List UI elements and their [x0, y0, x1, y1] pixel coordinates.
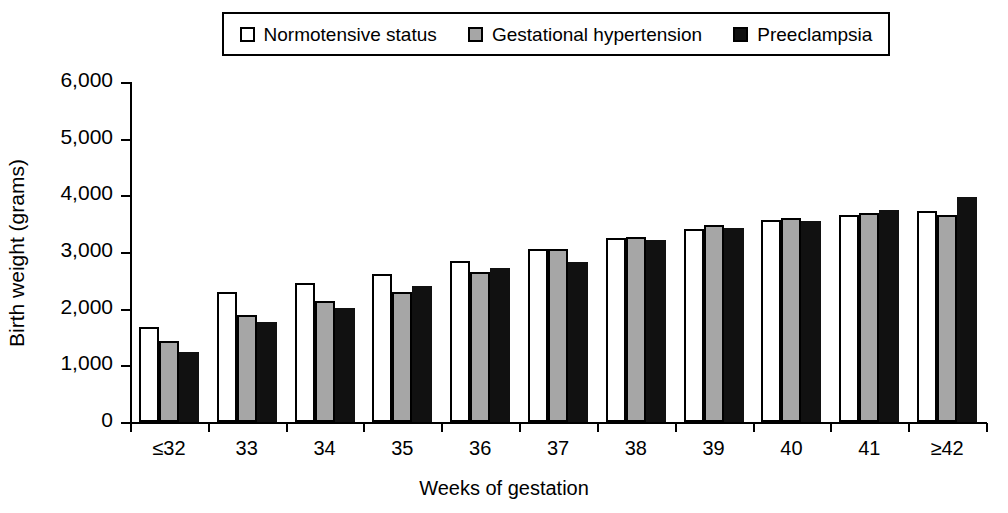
bar-group	[528, 82, 588, 422]
x-tick	[441, 423, 443, 432]
y-axis-title: Birth weight (grams)	[6, 0, 27, 128]
bar-group	[295, 82, 355, 422]
bar	[450, 261, 470, 422]
x-tick-label: 39	[703, 438, 725, 458]
x-tick	[286, 423, 288, 432]
legend-swatch-black-icon	[733, 27, 748, 42]
x-tick-label: 40	[780, 438, 802, 458]
x-tick-label: 34	[313, 438, 335, 458]
y-tick-2000: 2,000	[121, 309, 130, 311]
bar	[859, 213, 879, 422]
bar	[957, 197, 977, 422]
bar	[917, 211, 937, 422]
x-tick	[675, 423, 677, 432]
y-tick-0: 0	[121, 422, 130, 424]
bar	[372, 274, 392, 422]
legend-swatch-white-icon	[240, 27, 255, 42]
bar-group	[917, 82, 977, 422]
bar-group	[139, 82, 199, 422]
bar	[606, 238, 626, 422]
y-tick-label-6000: 6,000	[23, 69, 113, 90]
bar	[237, 315, 257, 422]
legend-label-preeclampsia: Preeclampsia	[757, 25, 872, 44]
y-tick-label-2000: 2,000	[23, 296, 113, 317]
legend-label-gestational-hypertension: Gestational hypertension	[492, 25, 702, 44]
x-tick	[830, 423, 832, 432]
legend-item-preeclampsia: Preeclampsia	[733, 25, 872, 44]
bar	[490, 268, 510, 422]
bar	[704, 225, 724, 422]
bar	[937, 215, 957, 422]
x-tick	[519, 423, 521, 432]
y-tick-1000: 1,000	[121, 365, 130, 367]
y-tick-label-0: 0	[23, 409, 113, 430]
x-tick-label: 35	[391, 438, 413, 458]
bar	[159, 341, 179, 422]
bar	[761, 220, 781, 422]
x-tick-label: ≥42	[930, 438, 963, 458]
bar	[257, 322, 277, 422]
legend-label-normotensive: Normotensive status	[264, 25, 437, 44]
y-axis-line	[130, 82, 132, 423]
x-tick	[597, 423, 599, 432]
y-tick-label-4000: 4,000	[23, 182, 113, 203]
bar	[412, 286, 432, 422]
x-tick-label: 36	[469, 438, 491, 458]
x-tick-label: 38	[625, 438, 647, 458]
bar	[295, 283, 315, 422]
x-tick	[363, 423, 365, 432]
bar	[879, 210, 899, 423]
bar	[179, 352, 199, 422]
bar	[548, 249, 568, 422]
x-axis-line	[130, 422, 987, 424]
x-tick	[986, 423, 988, 432]
x-tick-label: ≤32	[152, 438, 185, 458]
y-tick-6000: 6,000	[121, 82, 130, 84]
x-axis-title: Weeks of gestation	[0, 478, 1008, 498]
bar	[781, 218, 801, 422]
bar-group	[839, 82, 899, 422]
legend-item-gestational-hypertension: Gestational hypertension	[468, 25, 702, 44]
legend-item-normotensive: Normotensive status	[240, 25, 437, 44]
bar	[470, 272, 490, 422]
chart-legend: Normotensive status Gestational hyperten…	[222, 12, 890, 56]
bar-group	[606, 82, 666, 422]
y-tick-5000: 5,000	[121, 139, 130, 141]
bar-group	[761, 82, 821, 422]
bar	[392, 292, 412, 422]
bar-chart-figure: Normotensive status Gestational hyperten…	[0, 0, 1008, 513]
x-tick	[908, 423, 910, 432]
bar-group	[217, 82, 277, 422]
x-tick-label: 37	[547, 438, 569, 458]
bar	[646, 240, 666, 422]
bar	[684, 229, 704, 422]
bar	[528, 249, 548, 422]
bar	[139, 327, 159, 422]
bar-group	[372, 82, 432, 422]
bar	[568, 262, 588, 422]
bar-group	[450, 82, 510, 422]
bar-group	[684, 82, 744, 422]
bar	[839, 215, 859, 422]
bar	[217, 292, 237, 422]
y-tick-label-1000: 1,000	[23, 352, 113, 373]
x-tick-label: 41	[858, 438, 880, 458]
bar	[335, 308, 355, 422]
y-tick-3000: 3,000	[121, 252, 130, 254]
x-tick	[208, 423, 210, 432]
y-tick-label-5000: 5,000	[23, 126, 113, 147]
bar	[801, 221, 821, 422]
x-tick-label: 33	[236, 438, 258, 458]
plot-area: 01,0002,0003,0004,0005,0006,000 ≤3233343…	[130, 82, 986, 422]
bar	[724, 228, 744, 422]
bar	[626, 237, 646, 422]
x-tick	[130, 423, 132, 432]
legend-swatch-gray-icon	[468, 27, 483, 42]
bar	[315, 301, 335, 422]
y-tick-4000: 4,000	[121, 195, 130, 197]
x-tick	[753, 423, 755, 432]
y-tick-label-3000: 3,000	[23, 239, 113, 260]
